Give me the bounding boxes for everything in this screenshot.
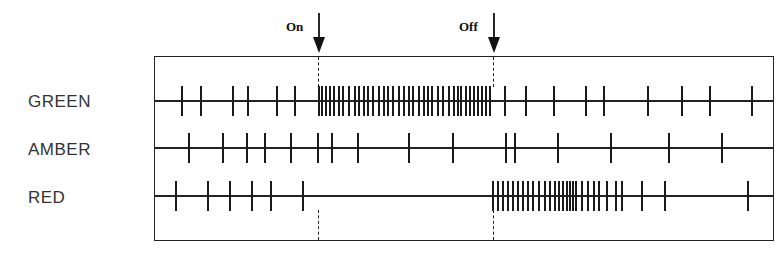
spike-red [615, 181, 617, 211]
spike-red [497, 181, 499, 211]
spike-amber [557, 133, 559, 163]
spike-green [200, 86, 202, 116]
spike-green [358, 86, 360, 116]
spike-red [587, 181, 589, 211]
spike-green [318, 86, 320, 116]
baseline-red [154, 195, 774, 197]
spike-green [681, 86, 683, 116]
spike-green [408, 86, 410, 116]
off-down-arrow-icon [487, 13, 501, 53]
spike-red [606, 181, 608, 211]
off-dashed-line-bottom [493, 210, 494, 240]
on-dashed-line-bottom [318, 210, 319, 240]
spike-green [354, 86, 356, 116]
spike-amber [246, 133, 248, 163]
spike-green [403, 86, 405, 116]
spike-red [562, 181, 564, 211]
on-marker-label: On [286, 19, 303, 35]
spike-red [593, 181, 595, 211]
spike-amber [222, 133, 224, 163]
spike-red [507, 181, 509, 211]
spike-red [229, 181, 231, 211]
spike-green [553, 86, 555, 116]
row-label-red: RED [28, 188, 65, 208]
spike-red [532, 181, 534, 211]
spike-green [372, 86, 374, 116]
spike-red [575, 181, 577, 211]
spike-green [378, 86, 380, 116]
spike-green [232, 86, 234, 116]
spike-green [333, 86, 335, 116]
spike-amber [188, 133, 190, 163]
spike-red [554, 181, 556, 211]
spike-red [251, 181, 253, 211]
spike-red [538, 181, 540, 211]
spike-green [431, 86, 433, 116]
row-label-green: GREEN [28, 92, 91, 112]
spike-green [465, 86, 467, 116]
spike-amber [331, 133, 333, 163]
spike-amber [317, 133, 319, 163]
spike-green [489, 86, 491, 116]
spike-red [492, 181, 494, 211]
spike-green [342, 86, 344, 116]
spike-green [457, 86, 459, 116]
spike-red [581, 181, 583, 211]
spike-green [647, 86, 649, 116]
spike-green [709, 86, 711, 116]
spike-red [175, 181, 177, 211]
spike-red [527, 181, 529, 211]
spike-green [448, 86, 450, 116]
spike-green [751, 86, 753, 116]
spike-green [276, 86, 278, 116]
spike-green [392, 86, 394, 116]
spike-green [247, 86, 249, 116]
spike-red [270, 181, 272, 211]
spike-red [747, 181, 749, 211]
spike-green [387, 86, 389, 116]
row-label-amber: AMBER [28, 140, 91, 160]
on-dashed-line-top [318, 57, 319, 87]
spike-green [473, 86, 475, 116]
spike-green [367, 86, 369, 116]
spike-green [585, 86, 587, 116]
spike-amber [264, 133, 266, 163]
on-down-arrow-icon [312, 13, 326, 53]
spike-green [383, 86, 385, 116]
spike-red [621, 181, 623, 211]
spike-green [423, 86, 425, 116]
spike-red [502, 181, 504, 211]
spike-red [569, 181, 571, 211]
spike-green [412, 86, 414, 116]
spike-red [549, 181, 551, 211]
spike-amber [408, 133, 410, 163]
spike-green [504, 86, 506, 116]
spike-amber [668, 133, 670, 163]
spike-amber [505, 133, 507, 163]
spike-red [641, 181, 643, 211]
spike-amber [721, 133, 723, 163]
spike-red [598, 181, 600, 211]
spike-green [477, 86, 479, 116]
spike-green [348, 86, 350, 116]
spike-red [544, 181, 546, 211]
spike-green [427, 86, 429, 116]
spike-amber [514, 133, 516, 163]
spike-green [418, 86, 420, 116]
spike-amber [357, 133, 359, 163]
spike-green [181, 86, 183, 116]
spike-green [525, 86, 527, 116]
spike-green [338, 86, 340, 116]
spike-red [522, 181, 524, 211]
spike-green [460, 86, 462, 116]
spike-amber [610, 133, 612, 163]
spike-red [566, 181, 568, 211]
spike-green [437, 86, 439, 116]
spike-green [453, 86, 455, 116]
spike-red [558, 181, 560, 211]
spike-green [603, 86, 605, 116]
spike-red [572, 181, 574, 211]
spike-red [517, 181, 519, 211]
spike-green [398, 86, 400, 116]
spike-red [302, 181, 304, 211]
